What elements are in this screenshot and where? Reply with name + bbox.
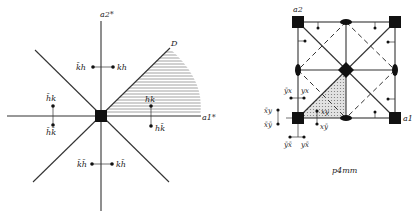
point-hbar-k xyxy=(51,104,55,108)
point-kbar-h xyxy=(91,65,95,69)
p4mm-plane-group-diagram: ȳx yx x̄y x̄ȳ xy xȳ ȳx̄ yx̄ a2 a1 p4mm xyxy=(264,5,413,175)
svg-text:ȳx̄: ȳx̄ xyxy=(283,141,292,149)
axis-a1-label: a1* xyxy=(202,113,216,122)
fourfold-symbol-tr xyxy=(389,16,401,28)
plane-group-caption: p4mm xyxy=(332,166,358,175)
svg-text:hk̄: hk̄ xyxy=(155,123,165,133)
point-hbar-kbar xyxy=(51,123,55,127)
svg-text:kh̄: kh̄ xyxy=(116,159,126,169)
point-xy xyxy=(315,109,318,112)
svg-text:kh: kh xyxy=(117,63,127,72)
point-hk xyxy=(149,104,153,108)
fourfold-symbol-bl xyxy=(292,112,304,124)
svg-text:x̄ȳ: x̄ȳ xyxy=(264,121,273,129)
svg-text:xȳ: xȳ xyxy=(320,123,329,131)
svg-text:xy: xy xyxy=(321,108,330,116)
point-kh xyxy=(111,65,115,69)
svg-text:k̄h̄: k̄h̄ xyxy=(77,159,87,169)
twofold-symbol-right xyxy=(392,64,398,76)
fourfold-symbol-br xyxy=(389,112,401,124)
axis-a1-label-right: a1 xyxy=(403,114,413,123)
twofold-symbol-top xyxy=(340,19,352,25)
svg-text:h̄k̄: h̄k̄ xyxy=(46,127,56,137)
twofold-symbol-bottom xyxy=(340,115,352,121)
point-kbar-hbar xyxy=(90,162,94,166)
region-d-label: D xyxy=(170,39,178,48)
svg-text:hk: hk xyxy=(145,95,155,104)
svg-text:h̄k: h̄k xyxy=(46,93,56,103)
fourfold-axis-symbol xyxy=(95,110,107,122)
svg-text:yx: yx xyxy=(300,87,309,95)
fourfold-symbol-tl xyxy=(292,16,304,28)
axis-a2-label-right: a2 xyxy=(293,5,303,14)
figure: a2* a1* D k̄h kh h̄k h̄k̄ hk hk̄ k̄h̄ kh… xyxy=(0,0,420,215)
asymmetric-region-hatch xyxy=(100,52,210,112)
reciprocal-lattice-diagram: a2* a1* D k̄h kh h̄k h̄k̄ hk hk̄ k̄h̄ kh… xyxy=(7,10,216,211)
svg-text:x̄y: x̄y xyxy=(264,107,273,115)
svg-text:k̄h: k̄h xyxy=(76,62,86,72)
svg-text:ȳx: ȳx xyxy=(283,87,292,95)
point-h-kbar xyxy=(149,124,153,128)
point-k-hbar xyxy=(110,162,114,166)
twofold-symbol-left xyxy=(295,64,301,76)
svg-text:yx̄: yx̄ xyxy=(300,141,309,149)
axis-a2-label: a2* xyxy=(100,10,114,19)
